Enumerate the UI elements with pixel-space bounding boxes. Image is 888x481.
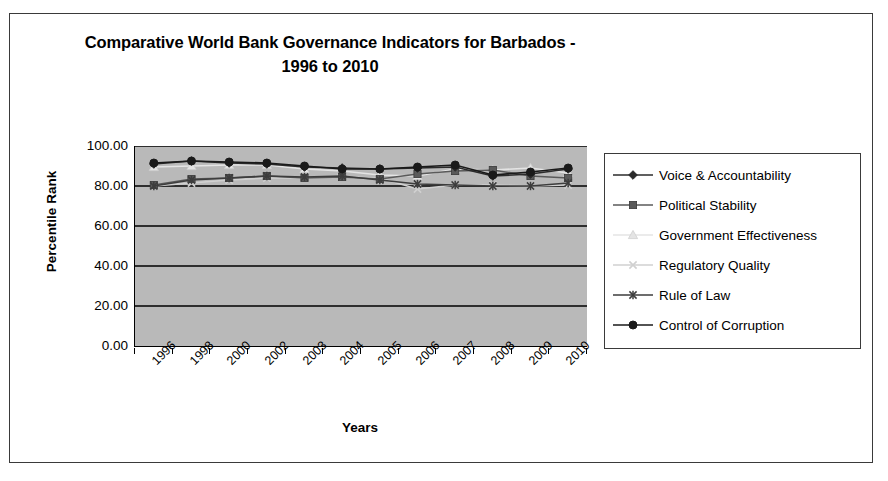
x-tick-mark (548, 348, 549, 354)
y-tick-label: 80.00 (58, 179, 128, 193)
chart-frame: Comparative World Bank Governance Indica… (9, 13, 873, 463)
x-tick-mark (285, 348, 286, 354)
data-point-marker (376, 165, 384, 173)
x-tick-mark (209, 348, 210, 354)
legend-marker-icon (611, 164, 655, 186)
chart-title-line-2: 1996 to 2010 (50, 55, 610, 79)
data-point-marker (414, 163, 422, 171)
legend-marker-icon (611, 224, 655, 246)
data-point-marker (629, 171, 638, 180)
data-point-marker (150, 159, 158, 167)
y-tick-label: 60.00 (58, 219, 128, 233)
y-tick-label: 40.00 (58, 259, 128, 273)
legend-label: Political Stability (655, 198, 757, 213)
data-point-marker (225, 158, 233, 166)
x-tick-mark (247, 348, 248, 354)
x-tick-mark (586, 348, 587, 354)
legend-item[interactable]: Control of Corruption (611, 310, 860, 340)
x-tick-mark (360, 348, 361, 354)
y-tick-label: 0.00 (58, 339, 128, 353)
x-axis-title: Years (134, 420, 586, 435)
legend-label: Voice & Accountability (655, 168, 791, 183)
x-tick-mark (322, 348, 323, 354)
data-point-marker (629, 321, 637, 329)
chart-title-line-1: Comparative World Bank Governance Indica… (50, 31, 610, 55)
legend-marker-icon (611, 254, 655, 276)
x-tick-mark (172, 348, 173, 354)
x-tick-mark (398, 348, 399, 354)
data-point-marker (527, 168, 535, 176)
x-tick-mark (511, 348, 512, 354)
chart-title: Comparative World Bank Governance Indica… (50, 31, 610, 79)
data-point-marker (301, 162, 309, 170)
legend-label: Government Effectiveness (655, 228, 817, 243)
data-point-marker (489, 171, 497, 179)
data-point-marker (451, 161, 459, 169)
legend-item[interactable]: Government Effectiveness (611, 220, 860, 250)
legend-item[interactable]: Regulatory Quality (611, 250, 860, 280)
data-point-marker (629, 201, 636, 208)
data-point-marker (263, 159, 271, 167)
legend-label: Rule of Law (655, 288, 730, 303)
plot-series-svg (135, 146, 587, 346)
x-tick-mark (134, 348, 135, 354)
data-point-marker (564, 164, 572, 172)
data-point-marker (188, 157, 196, 165)
legend-marker-icon (611, 194, 655, 216)
chart-legend: Voice & AccountabilityPolitical Stabilit… (604, 153, 861, 349)
legend-marker-icon (611, 314, 655, 336)
y-tick-label: 100.00 (58, 139, 128, 153)
legend-label: Regulatory Quality (655, 258, 770, 273)
y-tick-label: 20.00 (58, 299, 128, 313)
y-axis-tick-labels: 100.0080.0060.0040.0020.000.00 (52, 146, 128, 346)
x-axis-tick-labels: 1996199820002002200320042005200620072008… (134, 348, 586, 418)
legend-item[interactable]: Voice & Accountability (611, 160, 860, 190)
legend-item[interactable]: Political Stability (611, 190, 860, 220)
plot-area (134, 146, 587, 347)
x-tick-mark (473, 348, 474, 354)
data-point-marker (338, 165, 346, 173)
legend-marker-icon (611, 284, 655, 306)
legend-item[interactable]: Rule of Law (611, 280, 860, 310)
legend-label: Control of Corruption (655, 318, 784, 333)
x-tick-mark (435, 348, 436, 354)
